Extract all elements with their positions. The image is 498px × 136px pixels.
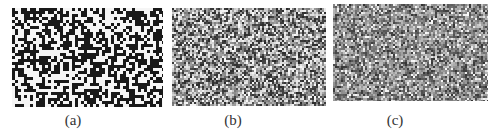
noise-image-a — [12, 8, 163, 107]
noise-image-b — [172, 8, 326, 106]
caption-c: (c) — [365, 112, 425, 129]
caption-a: (a) — [43, 112, 103, 129]
panel-c — [333, 4, 488, 101]
caption-b: (b) — [203, 112, 263, 129]
panel-b — [172, 8, 326, 106]
panel-a — [12, 8, 163, 107]
noise-image-c — [333, 4, 488, 101]
